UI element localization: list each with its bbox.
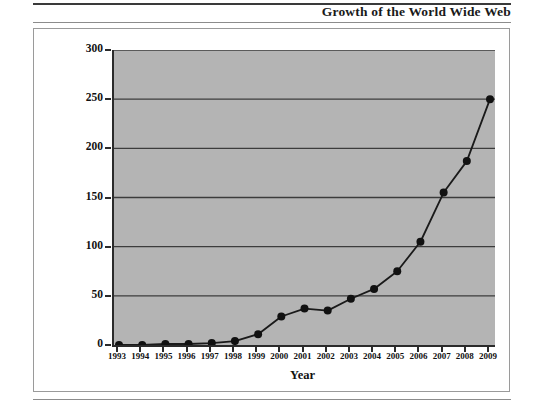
x-tick-mark: [487, 347, 489, 352]
y-tick-label: 0: [65, 337, 103, 349]
x-tick-mark: [139, 347, 141, 352]
data-point: [208, 339, 216, 345]
series-markers: [115, 95, 494, 345]
x-tick-mark: [255, 347, 257, 352]
y-tick-mark: [105, 246, 111, 248]
header-rule-bottom: [33, 22, 511, 23]
data-point: [370, 285, 378, 293]
x-tick-mark: [441, 347, 443, 352]
data-point: [277, 312, 285, 320]
x-tick-mark: [394, 347, 396, 352]
x-tick-mark: [186, 347, 188, 352]
data-point: [138, 341, 146, 345]
data-point: [161, 340, 169, 345]
y-tick-mark: [105, 147, 111, 149]
data-point: [416, 238, 424, 246]
x-tick-mark: [116, 347, 118, 352]
y-tick-mark: [105, 295, 111, 297]
data-point: [324, 307, 332, 315]
x-tick-mark: [302, 347, 304, 352]
data-point: [440, 189, 448, 197]
data-point: [185, 340, 193, 345]
y-tick-label: 300: [65, 42, 103, 54]
data-point: [231, 337, 239, 345]
y-tick-mark: [105, 98, 111, 100]
plot-area: [112, 50, 495, 347]
y-tick-mark: [105, 49, 111, 51]
x-tick-mark: [325, 347, 327, 352]
data-point: [301, 305, 309, 313]
page-title: Growth of the World Wide Web: [322, 4, 511, 20]
y-tick-label: 50: [65, 288, 103, 300]
y-tick-label: 150: [65, 190, 103, 202]
data-point: [254, 330, 262, 338]
data-point: [115, 341, 123, 345]
x-tick-mark: [464, 347, 466, 352]
x-tick-mark: [162, 347, 164, 352]
data-point: [347, 295, 355, 303]
x-tick-mark: [278, 347, 280, 352]
figure-page: Growth of the World Wide Web Estimated n…: [0, 0, 544, 406]
y-tick-label: 250: [65, 91, 103, 103]
x-tick-mark: [371, 347, 373, 352]
data-point: [486, 95, 494, 103]
chart-canvas: [114, 50, 495, 345]
gridlines: [114, 50, 495, 296]
y-tick-label: 200: [65, 140, 103, 152]
x-axis-title: Year: [112, 368, 493, 383]
figure-rule-bottom: [33, 399, 511, 400]
y-tick-mark: [105, 344, 111, 346]
x-tick-mark: [348, 347, 350, 352]
data-point: [463, 157, 471, 165]
x-tick-label: 2009: [471, 351, 505, 361]
x-tick-mark: [417, 347, 419, 352]
y-tick-label: 100: [65, 239, 103, 251]
data-point: [393, 267, 401, 275]
y-tick-mark: [105, 197, 111, 199]
x-tick-mark: [209, 347, 211, 352]
x-tick-mark: [232, 347, 234, 352]
